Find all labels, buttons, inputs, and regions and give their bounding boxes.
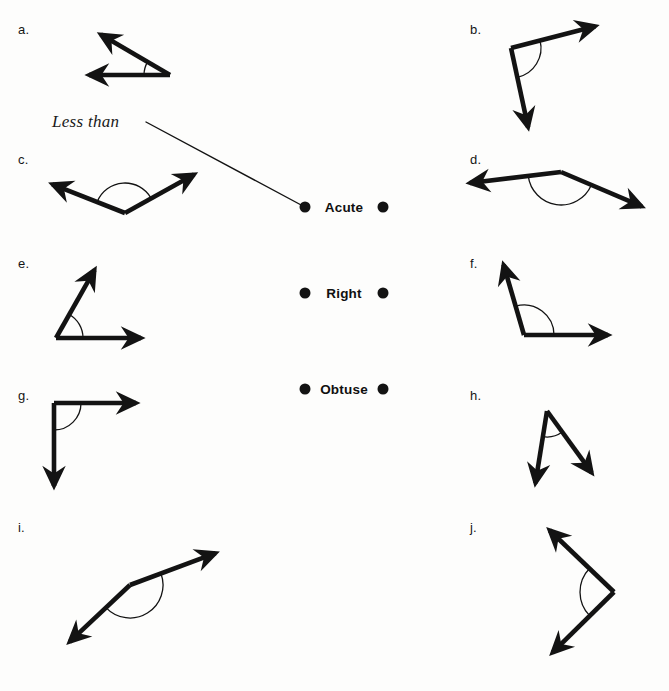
angle-figure-c[interactable] xyxy=(52,174,194,213)
angle-ray-d-2 xyxy=(561,172,642,206)
angle-figure-i[interactable] xyxy=(70,553,216,642)
angle-figure-g[interactable] xyxy=(54,403,136,486)
figure-label-j: j. xyxy=(470,520,477,535)
figure-label-c: c. xyxy=(18,152,29,167)
figure-label-h: h. xyxy=(470,388,481,403)
figure-label-e: e. xyxy=(18,256,29,271)
angle-arc-g xyxy=(54,403,81,430)
angle-arc-c xyxy=(97,183,151,202)
angle-ray-c-2 xyxy=(125,174,194,213)
angle-arc-e xyxy=(69,315,83,339)
angle-arc-j xyxy=(580,568,590,615)
angle-figure-e[interactable] xyxy=(56,270,141,338)
angle-ray-f-1 xyxy=(504,265,524,335)
category-label-right: Right xyxy=(326,286,362,301)
figure-label-i: i. xyxy=(18,520,25,535)
match-dot-obtuse-left[interactable] xyxy=(300,384,311,395)
angle-figures-layer xyxy=(0,0,669,691)
worksheet-page: a.b.c.d.e.f.g.h.i.j. Less than AcuteRigh… xyxy=(0,0,669,691)
angle-ray-a-1 xyxy=(101,35,170,75)
angle-ray-e-1 xyxy=(56,270,95,338)
angle-ray-c-1 xyxy=(52,184,125,213)
angle-ray-b-1 xyxy=(511,26,595,48)
less-than-hint-label: Less than xyxy=(52,112,119,132)
angle-ray-h-1 xyxy=(535,411,547,483)
angle-ray-j-2 xyxy=(552,592,614,653)
match-dot-right-right[interactable] xyxy=(378,288,389,299)
match-dot-obtuse-right[interactable] xyxy=(378,384,389,395)
figure-label-g: g. xyxy=(18,388,29,403)
angle-figure-b[interactable] xyxy=(511,26,595,127)
figure-label-d: d. xyxy=(470,152,481,167)
angle-ray-i-1 xyxy=(130,553,216,585)
angle-ray-d-1 xyxy=(470,172,561,183)
angle-figure-a[interactable] xyxy=(89,35,170,75)
angle-ray-h-2 xyxy=(547,411,592,473)
category-label-acute: Acute xyxy=(325,200,364,215)
angle-figure-f[interactable] xyxy=(504,265,608,335)
match-dot-acute-left[interactable] xyxy=(300,202,311,213)
figure-label-b: b. xyxy=(470,22,481,37)
angle-figure-h[interactable] xyxy=(535,411,591,483)
angle-figure-d[interactable] xyxy=(470,172,642,206)
angle-arc-i xyxy=(106,573,163,618)
figure-label-a: a. xyxy=(18,22,29,37)
angle-figure-j[interactable] xyxy=(549,530,614,652)
figure-label-f: f. xyxy=(470,256,478,271)
match-dot-right-left[interactable] xyxy=(300,288,311,299)
match-dot-acute-right[interactable] xyxy=(378,202,389,213)
angle-ray-b-2 xyxy=(511,48,528,127)
angle-ray-i-2 xyxy=(70,585,130,642)
category-label-obtuse: Obtuse xyxy=(320,382,368,397)
